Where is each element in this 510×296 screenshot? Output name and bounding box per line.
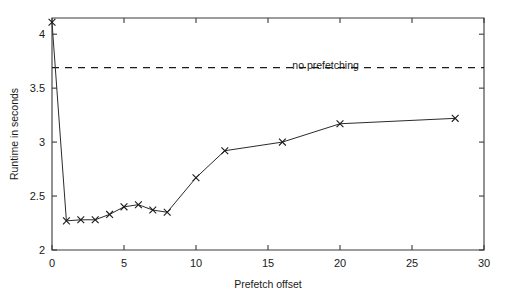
plot-frame [52,18,484,250]
y-tick-label: 2.5 [30,190,45,202]
x-tick-label: 30 [478,257,490,269]
data-point-marker [193,174,200,181]
x-axis-tick-labels: 051015202530 [49,257,490,269]
data-point-marker [106,211,113,218]
y-axis-title: Runtime in seconds [8,88,20,180]
y-axis-tick-labels: 22.533.54 [30,28,45,256]
chart-svg: 22.533.54 051015202530 no prefetching Pr… [0,0,510,296]
runtime-series-markers [49,19,459,224]
x-tick-label: 15 [262,257,274,269]
runtime-vs-prefetch-offset-chart: 22.533.54 051015202530 no prefetching Pr… [0,0,510,296]
y-tick-label: 3 [39,136,45,148]
x-axis-title: Prefetch offset [234,278,302,290]
y-tick-label: 3.5 [30,82,45,94]
y-tick-label: 4 [39,28,45,40]
x-tick-label: 20 [334,257,346,269]
x-axis-ticks [52,18,484,250]
x-tick-label: 0 [49,257,55,269]
runtime-series-line [52,22,455,221]
x-tick-label: 25 [406,257,418,269]
x-tick-label: 5 [121,257,127,269]
y-tick-label: 2 [39,244,45,256]
x-tick-label: 10 [190,257,202,269]
y-axis-ticks [52,34,484,250]
no-prefetching-label: no prefetching [292,59,359,71]
